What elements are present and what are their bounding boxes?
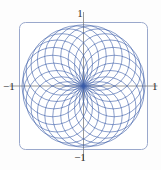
axis-label-bottom: −1 [74, 152, 86, 163]
circle-rose-plot [0, 0, 161, 170]
axis-label-right: 1 [152, 81, 158, 92]
axis-label-top: 1 [77, 8, 83, 19]
axis-label-left: −1 [3, 81, 15, 92]
figure-container: 1 −1 −1 1 [0, 0, 161, 170]
